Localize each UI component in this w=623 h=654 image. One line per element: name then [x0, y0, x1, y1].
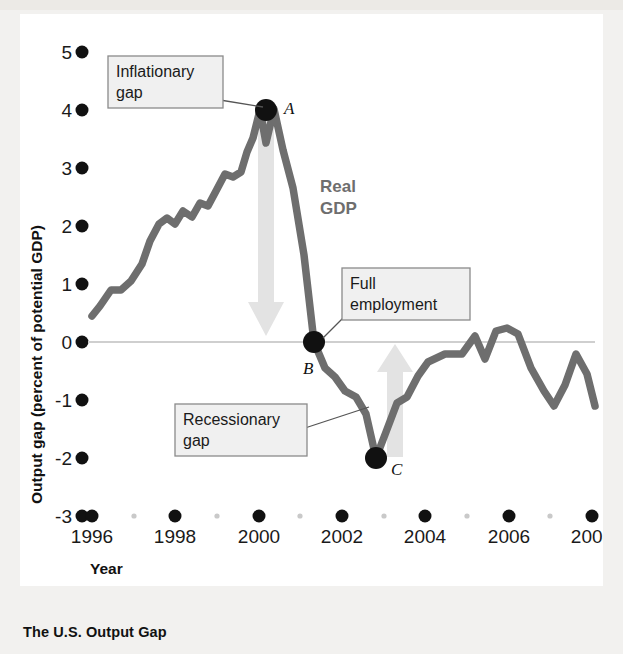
callout-inflationary-gap-line1: Inflationary — [116, 63, 194, 80]
y-tick-dot-neg2 — [76, 452, 89, 465]
y-tick-label-5: 5 — [61, 42, 72, 63]
x-tick-label-2008: 2008 — [571, 526, 603, 547]
x-tick-label-2004: 2004 — [404, 526, 447, 547]
y-tick-dot-3 — [76, 162, 89, 175]
figure-caption: The U.S. Output Gap — [23, 624, 167, 640]
real-gdp-series-label: Real GDP — [320, 177, 357, 218]
series-label-line1: Real — [320, 177, 356, 196]
figure-card: 5 4 3 2 1 0 -1 -2 -3 — [20, 14, 603, 586]
y-tick-dot-neg1 — [76, 394, 89, 407]
x-tick-dot-1996 — [86, 510, 99, 523]
page-top-bleed — [0, 0, 623, 10]
x-tick-dot-2006 — [503, 510, 516, 523]
y-tick-label-3: 3 — [61, 158, 72, 179]
y-tick-label-neg3: -3 — [55, 506, 72, 527]
x-axis-title: Year — [90, 560, 123, 577]
y-axis: 5 4 3 2 1 0 -1 -2 -3 — [55, 42, 88, 527]
callout-full-employment-line2: employment — [350, 296, 438, 313]
x-tick-dot-2004 — [419, 510, 432, 523]
point-a-marker — [255, 99, 277, 121]
callout-full-employment: Full employment — [323, 268, 470, 338]
callout-leader-line — [305, 407, 369, 428]
point-b-label: B — [303, 359, 314, 378]
callout-recessionary-gap-line2: gap — [183, 432, 210, 449]
y-tick-label-neg1: -1 — [55, 390, 72, 411]
x-tick-label-2006: 2006 — [488, 526, 530, 547]
x-tick-label-2000: 2000 — [238, 526, 280, 547]
callout-inflationary-gap-line2: gap — [116, 84, 143, 101]
point-b-marker — [303, 331, 325, 353]
x-tick-dot-2000 — [253, 510, 266, 523]
y-tick-dot-1 — [76, 278, 89, 291]
x-tick-dot-2002 — [336, 510, 349, 523]
output-gap-chart: 5 4 3 2 1 0 -1 -2 -3 — [20, 14, 603, 586]
y-axis-title: Output gap (percent of potential GDP) — [28, 225, 45, 504]
x-axis: 1996 1998 2000 2002 2004 2006 2008 — [71, 510, 603, 548]
callout-recessionary-gap: Recessionary gap — [175, 404, 369, 456]
point-c-marker — [365, 447, 387, 469]
x-tick-dot-1998 — [169, 510, 182, 523]
callout-recessionary-gap-line1: Recessionary — [183, 411, 280, 428]
x-minor-tick-dot-1997 — [131, 513, 136, 518]
x-tick-label-2002: 2002 — [321, 526, 363, 547]
y-tick-label-0: 0 — [61, 332, 72, 353]
y-tick-dot-5 — [76, 46, 89, 59]
y-tick-label-1: 1 — [61, 274, 72, 295]
y-tick-dot-0 — [76, 336, 89, 349]
callout-leader-line — [220, 100, 263, 107]
figure-page: 5 4 3 2 1 0 -1 -2 -3 — [0, 0, 623, 654]
x-tick-label-1998: 1998 — [154, 526, 196, 547]
x-minor-tick-dot-2007 — [547, 513, 552, 518]
x-tick-dot-2008 — [586, 510, 599, 523]
series-label-line2: GDP — [320, 199, 357, 218]
x-minor-tick-dot-1999 — [214, 513, 219, 518]
x-tick-label-1996: 1996 — [71, 526, 113, 547]
y-tick-dot-4 — [76, 104, 89, 117]
x-minor-tick-dot-2001 — [297, 513, 302, 518]
y-tick-label-4: 4 — [61, 100, 72, 121]
y-tick-label-2: 2 — [61, 216, 72, 237]
point-a-label: A — [283, 99, 295, 118]
x-minor-tick-dot-2005 — [464, 513, 469, 518]
x-minor-tick-dot-2003 — [381, 513, 386, 518]
callout-full-employment-line1: Full — [350, 275, 376, 292]
y-tick-label-neg2: -2 — [55, 448, 72, 469]
y-tick-dot-2 — [76, 220, 89, 233]
callout-inflationary-gap: Inflationary gap — [108, 56, 263, 108]
point-c-label: C — [391, 460, 403, 479]
